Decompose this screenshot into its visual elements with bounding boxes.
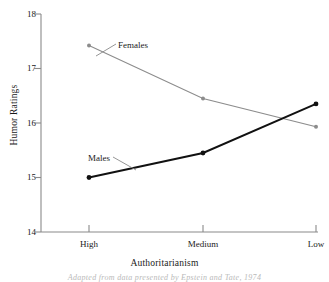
males-points [87, 102, 319, 180]
axis-lines [34, 14, 318, 232]
data-point-males-high [87, 175, 92, 180]
females-points [87, 44, 318, 129]
series-males [87, 102, 319, 180]
annotation-leader-lines [96, 44, 136, 170]
males-line [89, 104, 316, 178]
data-point-females-high [87, 44, 91, 48]
data-point-females-medium [201, 96, 205, 100]
females-line [89, 46, 316, 127]
series-females [87, 44, 318, 129]
data-point-males-low [314, 102, 319, 107]
leader-line-males [113, 157, 136, 170]
data-point-females-low [314, 125, 318, 129]
data-point-males-medium [201, 151, 206, 156]
